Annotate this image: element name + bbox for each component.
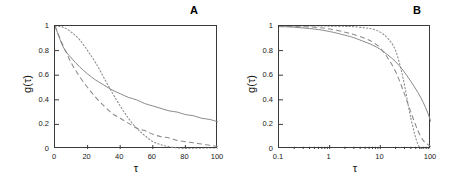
- panel-a-curves: [55, 26, 218, 149]
- panel-b-xtick-3: 100: [424, 152, 437, 161]
- panel-b-label: B: [413, 4, 421, 16]
- panel-a-xtick-4: 80: [180, 152, 188, 161]
- panel-a-xaxis-title: τ: [134, 162, 138, 174]
- panel-b-yaxis-title: g(τ): [245, 75, 257, 93]
- panel-a-ytick-4: 0.8: [28, 45, 49, 54]
- curve-stretched-exponential-beta-0.6: [279, 27, 431, 122]
- panel-b: B 0 0.2 0.4 0.6 0.8 1 0.1 1 10 100 τ g(τ…: [225, 0, 451, 187]
- curve-compressed-exponential-beta-2.0: [279, 26, 431, 149]
- panel-b-ytick-2: 0.4: [252, 94, 273, 103]
- panel-a: A 0 0.2 0.4 0.6 0.8 1 0 20 40 60 80 100 …: [0, 0, 226, 187]
- panel-b-xaxis-title: τ: [353, 162, 357, 174]
- panel-a-xtick-3: 60: [148, 152, 156, 161]
- panel-a-plot-area: [54, 25, 217, 148]
- panel-a-ytick-5: 1: [34, 21, 49, 30]
- panel-b-ytick-5: 1: [258, 21, 273, 30]
- panel-a-xtick-1: 20: [82, 152, 90, 161]
- figure-relaxation-curves: A 0 0.2 0.4 0.6 0.8 1 0 20 40 60 80 100 …: [0, 0, 451, 187]
- panel-a-ytick-0: 0: [34, 144, 49, 153]
- panel-a-xtick-5: 100: [211, 152, 224, 161]
- panel-a-xtick-2: 40: [115, 152, 123, 161]
- curve-compressed-exponential-beta-2.0: [55, 26, 218, 149]
- panel-a-xtick-0: 0: [52, 152, 56, 161]
- panel-b-xtick-2: 10: [375, 152, 383, 161]
- panel-b-ytick-0: 0: [258, 144, 273, 153]
- panel-a-label: A: [190, 4, 198, 16]
- curve-exponential-beta-1.0: [279, 26, 431, 146]
- panel-b-plot-area: [278, 25, 430, 148]
- panel-b-ytick-1: 0.2: [252, 119, 273, 128]
- curve-stretched-exponential-beta-0.6: [55, 26, 218, 122]
- panel-a-yaxis-title: g(τ): [21, 75, 33, 93]
- panel-a-ytick-2: 0.4: [28, 94, 49, 103]
- panel-b-xtick-0: 0.1: [273, 152, 283, 161]
- panel-b-curves: [279, 26, 431, 149]
- panel-a-ytick-1: 0.2: [28, 119, 49, 128]
- panel-b-ytick-4: 0.8: [252, 45, 273, 54]
- panel-b-xtick-1: 1: [327, 152, 331, 161]
